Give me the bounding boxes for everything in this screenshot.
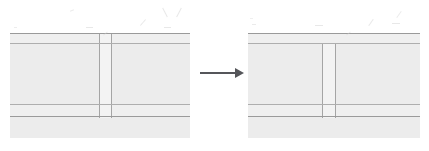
right-top-rule bbox=[248, 33, 420, 34]
left-vertical-member-edge-left bbox=[99, 33, 100, 118]
stray-mark bbox=[392, 23, 400, 24]
stray-mark bbox=[315, 25, 323, 26]
right-base-rule bbox=[248, 116, 420, 117]
right-base-band bbox=[248, 117, 420, 138]
stray-mark bbox=[396, 11, 401, 18]
stray-mark bbox=[368, 19, 373, 26]
stray-mark bbox=[164, 27, 171, 28]
right-vertical-member-edge-right bbox=[335, 43, 336, 118]
stray-mark bbox=[250, 18, 253, 19]
stray-mark bbox=[86, 27, 93, 28]
right-lower-band-rule bbox=[248, 104, 420, 105]
left-vertical-member bbox=[99, 33, 111, 118]
stray-mark bbox=[176, 8, 182, 17]
right-vertical-member bbox=[322, 43, 335, 118]
left-vertical-member-edge-right bbox=[111, 33, 112, 118]
left-base-band bbox=[10, 117, 190, 138]
stray-mark bbox=[252, 24, 256, 25]
transformation-arrow bbox=[200, 68, 246, 79]
right-figure bbox=[248, 31, 420, 138]
left-base-rule bbox=[10, 116, 190, 117]
right-upper-thin-band bbox=[248, 34, 420, 43]
right-vertical-member-edge-left bbox=[322, 43, 323, 118]
stray-mark bbox=[140, 19, 146, 26]
diagram-canvas bbox=[0, 0, 429, 151]
stray-mark bbox=[162, 8, 168, 17]
left-upper-band-rule bbox=[10, 43, 190, 44]
left-figure bbox=[10, 31, 190, 138]
right-upper-band-rule bbox=[248, 43, 420, 44]
arrow-head bbox=[235, 68, 244, 78]
arrow-shaft bbox=[200, 72, 236, 74]
stray-mark bbox=[14, 27, 17, 28]
left-top-rule bbox=[10, 33, 190, 34]
stray-mark bbox=[70, 9, 74, 11]
left-lower-band-rule bbox=[10, 104, 190, 105]
